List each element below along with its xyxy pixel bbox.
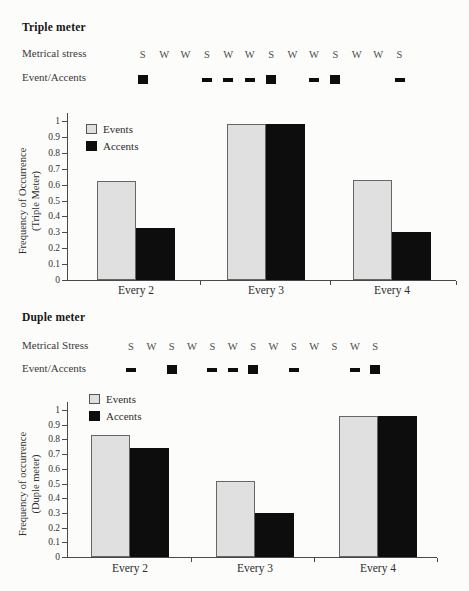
x-tick [330, 281, 331, 285]
x-tick [200, 281, 201, 285]
accent-square-marker [370, 365, 380, 374]
bar-events-every-4 [353, 180, 392, 280]
stress-letter-s: S [209, 340, 215, 354]
y-tick [62, 425, 67, 426]
legend-swatch-events [86, 124, 97, 134]
y-tick [62, 410, 67, 411]
stress-letter-w: W [268, 340, 278, 354]
x-tick [437, 558, 438, 562]
x-axis-line [67, 557, 437, 558]
accent-square-marker [138, 75, 148, 84]
event-dash-marker [350, 368, 360, 372]
metric-hierarchy-figure: Triple meter Metrical stress SWWSWWSWWSW… [0, 0, 469, 591]
y-tick [62, 280, 67, 281]
stress-letter-s: S [250, 340, 256, 354]
stress-letter-w: W [373, 48, 383, 62]
bar-accents-every-3 [255, 513, 294, 557]
x-category-label: Every 2 [91, 284, 181, 297]
stress-letter-s: S [332, 340, 338, 354]
event-dash-marker [395, 78, 405, 82]
y-tick-label: 0.1 [32, 536, 60, 548]
y-tick [62, 153, 67, 154]
y-tick [62, 137, 67, 138]
event-dash-marker [245, 78, 255, 82]
event-dash-marker [223, 78, 233, 82]
stress-letter-s: S [204, 48, 210, 62]
y-tick [62, 264, 67, 265]
event-dash-marker [289, 368, 299, 372]
y-axis-title: Frequency of occurrence(Duple meter) [17, 431, 42, 535]
legend-swatch-events [89, 394, 100, 404]
y-tick [62, 484, 67, 485]
bar-accents-every-4 [392, 232, 431, 280]
x-category-label: Every 3 [221, 284, 311, 297]
x-tick [191, 558, 192, 562]
y-tick [62, 201, 67, 202]
stress-letter-s: S [291, 340, 297, 354]
event-dash-marker [309, 78, 319, 82]
metrical-stress-row-triple: SWWSWWSWWSWWS [0, 48, 469, 62]
y-tick-label: 0 [32, 274, 60, 286]
x-category-label: Every 4 [347, 284, 437, 297]
y-tick [62, 439, 67, 440]
stress-letter-w: W [288, 48, 298, 62]
bar-events-every-2 [97, 181, 136, 280]
stress-letter-w: W [309, 340, 319, 354]
triple-meter-chart: 10.90.80.70.60.50.40.30.20.10Every 2Ever… [0, 108, 469, 308]
stress-letter-w: W [245, 48, 255, 62]
y-tick [62, 513, 67, 514]
accent-square-marker [330, 75, 340, 84]
stress-letter-w: W [228, 340, 238, 354]
y-tick-label: 0.9 [32, 419, 60, 431]
x-category-label: Every 3 [210, 562, 300, 575]
x-tick [456, 281, 457, 285]
x-category-label: Every 2 [85, 562, 175, 575]
stress-letter-s: S [140, 48, 146, 62]
bar-events-every-3 [216, 481, 255, 557]
x-axis-line [67, 280, 456, 281]
stress-letter-s: S [128, 340, 134, 354]
y-tick [62, 528, 67, 529]
y-tick-label: 0.1 [32, 258, 60, 270]
accent-square-marker [248, 365, 258, 374]
y-tick [62, 121, 67, 122]
y-axis-line [67, 402, 68, 557]
legend-label-accents: Accents [103, 140, 138, 153]
stress-letter-w: W [187, 340, 197, 354]
stress-letter-w: W [350, 340, 360, 354]
y-tick-label: 1 [32, 404, 60, 416]
legend-label-events: Events [103, 123, 133, 136]
legend-row-events: Events [89, 393, 159, 407]
stress-letter-s: S [397, 48, 403, 62]
bar-events-every-3 [227, 124, 266, 280]
legend-swatch-accents [86, 141, 97, 151]
y-axis-line [67, 113, 68, 280]
y-tick-label: 0.9 [32, 131, 60, 143]
metrical-stress-row-duple: SWSWSWSWSWSWS [0, 340, 469, 354]
y-tick [62, 498, 67, 499]
bar-accents-every-2 [136, 228, 175, 280]
legend-row-accents: Accents [86, 140, 156, 154]
x-tick [314, 558, 315, 562]
stress-letter-w: W [352, 48, 362, 62]
y-axis-title: Frequency of Occurrence(Triple Meter) [17, 147, 42, 254]
legend-label-events: Events [106, 393, 136, 406]
bar-accents-every-2 [130, 448, 169, 557]
bar-accents-every-4 [378, 416, 417, 557]
legend-label-accents: Accents [106, 410, 141, 423]
triple-meter-heading: Triple meter [22, 21, 86, 34]
y-tick [62, 557, 67, 558]
stress-letter-w: W [223, 48, 233, 62]
event-dash-marker [202, 78, 212, 82]
stress-letter-s: S [268, 48, 274, 62]
event-dash-marker [126, 368, 136, 372]
stress-letter-w: W [146, 340, 156, 354]
y-tick-label: 0 [32, 551, 60, 563]
y-tick [62, 454, 67, 455]
stress-letter-s: S [332, 48, 338, 62]
bar-events-every-4 [339, 416, 378, 557]
event-accents-row-duple [0, 363, 469, 377]
y-tick [62, 216, 67, 217]
bar-events-every-2 [91, 435, 130, 557]
y-tick [62, 248, 67, 249]
